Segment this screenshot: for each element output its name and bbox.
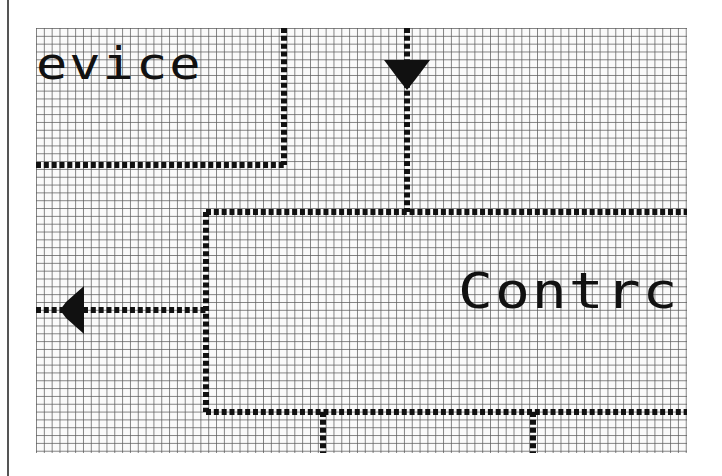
controller-block-label: Contrc xyxy=(458,264,687,318)
frame-border xyxy=(7,0,9,476)
label-layer xyxy=(36,28,687,453)
device-block-label: evice xyxy=(36,38,203,89)
